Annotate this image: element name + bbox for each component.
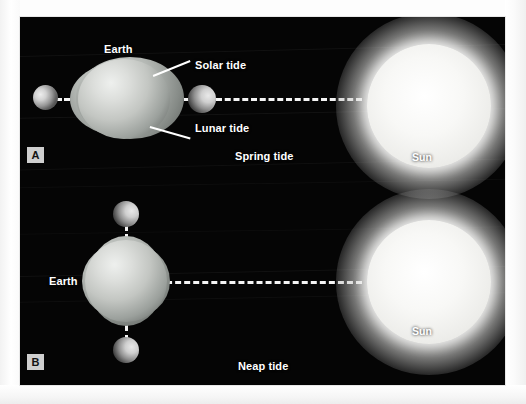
earth-label: Earth [49, 275, 78, 287]
night-sky-panel: Earth Solar tide Lunar tide Sun Spring t… [20, 17, 505, 385]
page-edge-left [0, 0, 20, 404]
page-edge-bottom [0, 385, 526, 404]
page-edge-right [505, 0, 526, 404]
tides-figure: Earth Solar tide Lunar tide Sun Spring t… [0, 0, 526, 404]
moon-icon [113, 201, 139, 227]
panel-b-neap-tide: Earth Sun Neap tide B [20, 17, 505, 385]
alignment-line-b-horizontal [148, 281, 362, 284]
sun-label: Sun [412, 325, 432, 337]
panel-tag-b: B [27, 354, 44, 370]
moon-icon [113, 337, 139, 363]
neap-tide-caption: Neap tide [238, 360, 288, 372]
earth-icon [85, 240, 167, 322]
